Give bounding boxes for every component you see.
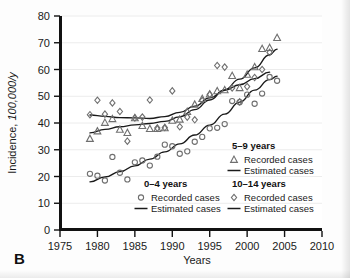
x-tick-label: 1990 xyxy=(160,240,184,252)
legend-recorded-label: Recorded cases xyxy=(244,192,313,203)
y-tick-label: 80 xyxy=(38,10,50,22)
x-tick-label: 2005 xyxy=(272,240,296,252)
y-tick-label: 70 xyxy=(38,37,50,49)
x-axis: 19751980198519901995200020052010 xyxy=(48,231,334,252)
chart-canvas: 01020304050607080 1975198019851990199520… xyxy=(0,0,350,278)
svg-text:Incidence, 100,000/y: Incidence, 100,000/y xyxy=(6,71,18,174)
legend-estimated-label: Estimated cases xyxy=(244,165,314,176)
x-axis-title: Years xyxy=(183,254,211,266)
y-axis-title-italic: 100,000/y xyxy=(6,71,18,121)
y-tick-label: 60 xyxy=(38,64,50,76)
legend-title: 0–4 years xyxy=(144,178,187,189)
panel-letter: B xyxy=(14,250,25,267)
x-tick-label: 1975 xyxy=(48,240,72,252)
legend-title: 5–9 years xyxy=(232,140,275,151)
x-tick-label: 1980 xyxy=(85,240,109,252)
legend-recorded-label: Recorded cases xyxy=(244,154,313,165)
y-axis-title: Incidence, 100,000/y xyxy=(6,71,18,174)
x-tick-label: 1985 xyxy=(123,240,147,252)
legend-recorded-label: Recorded cases xyxy=(151,192,220,203)
y-tick-label: 30 xyxy=(38,144,50,156)
x-tick-label: 2010 xyxy=(310,240,334,252)
x-tick-label: 2000 xyxy=(235,240,259,252)
legend-estimated-label: Estimated cases xyxy=(244,203,314,214)
y-tick-label: 20 xyxy=(38,171,50,183)
y-tick-label: 40 xyxy=(38,117,50,129)
x-tick-label: 1995 xyxy=(197,240,221,252)
figure-panel: 01020304050607080 1975198019851990199520… xyxy=(0,0,350,278)
y-axis: 01020304050607080 xyxy=(38,10,60,236)
y-tick-label: 10 xyxy=(38,197,50,209)
legend-title: 10–14 years xyxy=(232,178,286,189)
legend-estimated-label: Estimated cases xyxy=(151,203,221,214)
y-tick-label: 50 xyxy=(38,90,50,102)
y-tick-label: 0 xyxy=(44,224,50,236)
y-axis-title-plain: Incidence, xyxy=(6,121,18,174)
